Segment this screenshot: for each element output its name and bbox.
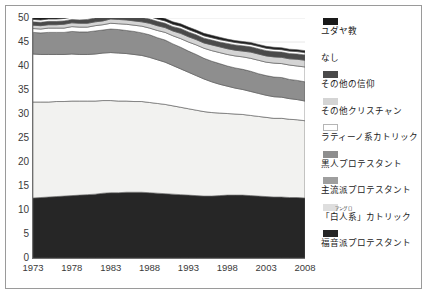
x-tick-label: 1988 [139, 262, 160, 273]
legend-label: ユダヤ教 [321, 26, 357, 37]
legend-label: その他クリスチャン [321, 106, 402, 117]
y-tick-label: 45 [3, 37, 29, 47]
legend-label: なし [321, 53, 339, 64]
stacked-area-svg [33, 18, 305, 258]
legend-label: その他の信仰 [321, 79, 375, 90]
legend-label: 「白人系アングロ」カトリック [321, 212, 411, 223]
ruby-annotation: アングロ [330, 206, 357, 211]
legend-swatch [323, 230, 338, 237]
legend-swatch [323, 124, 338, 131]
legend-swatch [323, 151, 338, 158]
x-axis: 19731978198319881993199820032008 [33, 262, 305, 276]
area-band [33, 192, 305, 258]
chart-figure: 05101520253035404550 1973197819831988199… [0, 0, 428, 295]
x-tick-label: 2003 [256, 262, 277, 273]
y-tick-label: 35 [3, 85, 29, 95]
y-axis: 05101520253035404550 [0, 18, 29, 258]
y-tick-label: 50 [3, 13, 29, 23]
x-tick-label: 1998 [217, 262, 238, 273]
legend-swatch [323, 71, 338, 78]
y-tick-label: 40 [3, 61, 29, 71]
x-tick-label: 1978 [61, 262, 82, 273]
chart-legend: ユダヤ教なしその他の信仰その他クリスチャンラティーノ系カトリック黒人プロテスタン… [320, 18, 423, 263]
y-tick-label: 10 [3, 205, 29, 215]
x-tick-label: 2008 [294, 262, 315, 273]
y-tick-label: 20 [3, 157, 29, 167]
legend-label: 黒人プロテスタント [321, 159, 402, 170]
y-tick-label: 25 [3, 133, 29, 143]
legend-swatch [323, 177, 338, 184]
legend-label: ラティーノ系カトリック [321, 132, 418, 143]
x-tick-label: 1973 [22, 262, 43, 273]
legend-swatch [323, 18, 338, 25]
ruby-base: 白人系アングロ [330, 212, 357, 223]
y-tick-label: 30 [3, 109, 29, 119]
x-axis-line [33, 258, 305, 259]
y-tick-label: 15 [3, 181, 29, 191]
legend-swatch [323, 98, 338, 105]
y-tick-label: 5 [3, 229, 29, 239]
x-tick-label: 1983 [100, 262, 121, 273]
legend-label: 福音派プロテスタント [321, 238, 411, 249]
legend-swatch [323, 45, 338, 52]
plot-region [33, 18, 305, 258]
stacked-area-plot [33, 18, 305, 258]
legend-label: 主流派プロテスタント [321, 185, 411, 196]
x-tick-label: 1993 [178, 262, 199, 273]
